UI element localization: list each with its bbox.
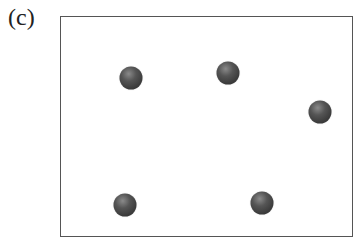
- panel-label: (c): [8, 4, 35, 31]
- sphere: [251, 192, 274, 215]
- sphere: [309, 101, 332, 124]
- sphere: [120, 67, 143, 90]
- sphere: [217, 62, 240, 85]
- diagram-frame: [60, 16, 353, 237]
- sphere: [114, 194, 137, 217]
